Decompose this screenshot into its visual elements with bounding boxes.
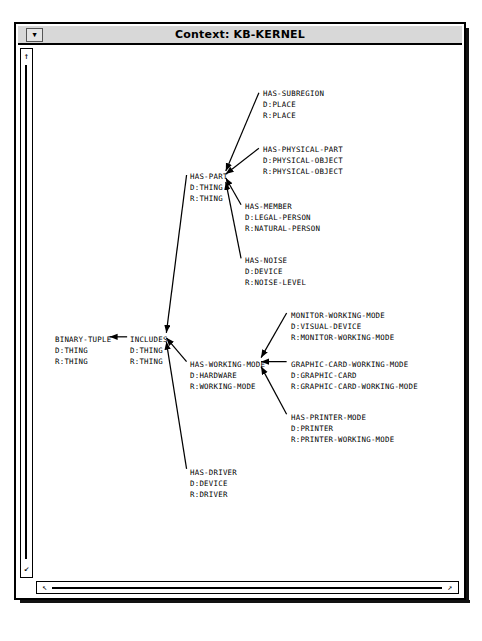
- node-range: R:PRINTER-WORKING-MODE: [291, 434, 394, 445]
- graph-node-has-subregion[interactable]: HAS-SUBREGIOND:PLACER:PLACE: [263, 88, 324, 121]
- window-drop-shadow-bottom: [20, 600, 470, 603]
- scroll-down-arrow-icon[interactable]: ↙: [21, 561, 32, 577]
- scroll-right-arrow-icon[interactable]: ↗: [443, 582, 457, 593]
- node-domain: D:THING: [190, 182, 228, 193]
- node-domain: D:GRAPHIC-CARD: [291, 370, 418, 381]
- graph-edge-monitor-working-mode-to-has-working-mode: [261, 313, 287, 358]
- context-window: ▼ Context: KB-KERNEL ↑ ↙ ↖ ↗ HAS-SUBREGI…: [14, 22, 466, 600]
- vertical-scrollbar[interactable]: ↑ ↙: [20, 48, 33, 578]
- node-range: R:MONITOR-WORKING-MODE: [291, 332, 394, 343]
- node-relation-name: HAS-MEMBER: [245, 201, 320, 212]
- horizontal-scrollbar[interactable]: ↖ ↗: [36, 581, 459, 594]
- node-relation-name: HAS-WORKING-MODE: [190, 359, 265, 370]
- node-domain: D:DEVICE: [190, 478, 237, 489]
- node-relation-name: HAS-DRIVER: [190, 467, 237, 478]
- graph-node-binary-tuple[interactable]: BINARY-TUPLED:THINGR:THING: [55, 334, 111, 367]
- node-relation-name: HAS-SUBREGION: [263, 88, 324, 99]
- graph-edge-layer: [35, 48, 460, 578]
- scroll-left-arrow-icon[interactable]: ↖: [38, 582, 52, 593]
- graph-node-has-member[interactable]: HAS-MEMBERD:LEGAL-PERSONR:NATURAL-PERSON: [245, 201, 320, 234]
- graph-edge-has-noise-to-has-part: [226, 182, 241, 258]
- node-range: R:GRAPHIC-CARD-WORKING-MODE: [291, 381, 418, 392]
- node-range: R:THING: [190, 193, 228, 204]
- scroll-up-arrow-icon[interactable]: ↑: [21, 49, 32, 65]
- node-range: R:PLACE: [263, 110, 324, 121]
- node-domain: D:LEGAL-PERSON: [245, 212, 320, 223]
- graph-node-has-noise[interactable]: HAS-NOISED:DEVICER:NOISE-LEVEL: [245, 255, 306, 288]
- graph-edge-has-part-to-includes: [166, 175, 186, 333]
- graph-edge-has-driver-to-includes: [166, 342, 186, 469]
- graph-edge-has-working-mode-to-includes: [166, 338, 186, 362]
- node-relation-name: MONITOR-WORKING-MODE: [291, 310, 394, 321]
- node-domain: D:DEVICE: [245, 266, 306, 277]
- graph-node-includes[interactable]: INCLUDESD:THINGR:THING: [130, 334, 168, 367]
- graph-edge-has-subregion-to-has-part: [226, 93, 259, 171]
- node-relation-name: HAS-PART: [190, 171, 228, 182]
- node-domain: D:PHYSICAL-OBJECT: [263, 155, 343, 166]
- node-domain: D:THING: [130, 345, 168, 356]
- graph-node-has-part[interactable]: HAS-PARTD:THINGR:THING: [190, 171, 228, 204]
- graph-canvas[interactable]: HAS-SUBREGIOND:PLACER:PLACEHAS-PHYSICAL-…: [35, 48, 460, 578]
- vertical-scrollbar-thumb[interactable]: [25, 65, 27, 559]
- graph-edge-has-member-to-has-part: [226, 178, 241, 205]
- node-domain: D:VISUAL-DEVICE: [291, 321, 394, 332]
- node-relation-name: GRAPHIC-CARD-WORKING-MODE: [291, 359, 418, 370]
- node-range: R:THING: [55, 356, 111, 367]
- node-relation-name: HAS-PHYSICAL-PART: [263, 144, 343, 155]
- graph-node-graphic-card-working-mode[interactable]: GRAPHIC-CARD-WORKING-MODED:GRAPHIC-CARDR…: [291, 359, 418, 392]
- graph-node-monitor-working-mode[interactable]: MONITOR-WORKING-MODED:VISUAL-DEVICER:MON…: [291, 310, 394, 343]
- graph-edge-has-physical-part-to-has-part: [226, 148, 259, 174]
- graph-node-has-working-mode[interactable]: HAS-WORKING-MODED:HARDWARER:WORKING-MODE: [190, 359, 265, 392]
- horizontal-scrollbar-thumb[interactable]: [52, 587, 442, 589]
- node-domain: D:PRINTER: [291, 423, 394, 434]
- node-relation-name: HAS-PRINTER-MODE: [291, 412, 394, 423]
- node-range: R:WORKING-MODE: [190, 381, 265, 392]
- graph-node-has-driver[interactable]: HAS-DRIVERD:DEVICER:DRIVER: [190, 467, 237, 500]
- window-title: Context: KB-KERNEL: [18, 28, 462, 41]
- node-relation-name: INCLUDES: [130, 334, 168, 345]
- node-range: R:PHYSICAL-OBJECT: [263, 166, 343, 177]
- graph-node-has-physical-part[interactable]: HAS-PHYSICAL-PARTD:PHYSICAL-OBJECTR:PHYS…: [263, 144, 343, 177]
- node-range: R:DRIVER: [190, 489, 237, 500]
- graph-node-has-printer-mode[interactable]: HAS-PRINTER-MODED:PRINTERR:PRINTER-WORKI…: [291, 412, 394, 445]
- title-bar: ▼ Context: KB-KERNEL: [18, 26, 462, 45]
- node-domain: D:HARDWARE: [190, 370, 265, 381]
- node-relation-name: BINARY-TUPLE: [55, 334, 111, 345]
- node-range: R:NATURAL-PERSON: [245, 223, 320, 234]
- node-domain: D:THING: [55, 345, 111, 356]
- node-range: R:THING: [130, 356, 168, 367]
- node-domain: D:PLACE: [263, 99, 324, 110]
- node-range: R:NOISE-LEVEL: [245, 277, 306, 288]
- node-relation-name: HAS-NOISE: [245, 255, 306, 266]
- window-drop-shadow-right: [466, 28, 469, 603]
